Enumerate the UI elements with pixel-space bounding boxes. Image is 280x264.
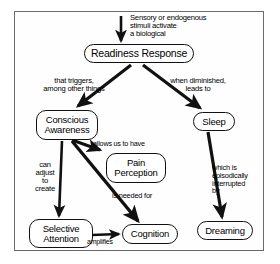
edge-label-when-diminished: when diminished, leads to	[160, 77, 236, 93]
node-selective-attention[interactable]: Selective Attention	[29, 219, 93, 248]
edge-label-is-needed-for: is needed for	[112, 192, 152, 200]
node-sleep-line-1: Sleep	[202, 117, 225, 127]
edge-label-sensory-stimuli-line-3: a biological	[130, 30, 206, 38]
node-readiness-response-line-1: Readiness Response	[91, 48, 187, 59]
edge-label-which-is-episodically-interrupted-by: which is episodically interrupted by	[212, 164, 266, 195]
edge-label-allows-us-to-have: allows us to have	[93, 140, 145, 148]
edge-label-can-adjust-to-create: can adjust to create	[30, 161, 60, 193]
edge-label-amplifies-line-1: amplifies	[87, 238, 113, 245]
node-conscious-awareness[interactable]: Conscious Awareness	[36, 110, 98, 140]
edge-label-which-is-line-3: interrupted	[212, 180, 266, 188]
edge-label-which-is-line-4: by	[212, 187, 266, 195]
node-sleep[interactable]: Sleep	[193, 112, 235, 131]
node-cognition[interactable]: Cognition	[122, 224, 178, 244]
arrow-selective-to-cognition	[92, 234, 119, 235]
edge-label-that-triggers: that triggers, among other things	[28, 77, 120, 93]
edge-label-sensory-stimuli: Sensory or endogenous stimuli activate a…	[130, 14, 206, 38]
node-readiness-response[interactable]: Readiness Response	[84, 44, 194, 63]
edge-label-amplifies: amplifies	[87, 238, 113, 245]
node-pain-perception-line-2: Perception	[114, 168, 157, 178]
edge-label-allows-us-to-have-line-1: allows us to have	[93, 140, 145, 148]
edge-label-can-adjust-to-create-line-4: create	[30, 185, 60, 193]
diagram-canvas: Readiness Response Conscious Awareness S…	[0, 0, 280, 264]
node-selective-attention-line-2: Attention	[43, 234, 79, 244]
edge-label-when-diminished-line-2: leads to	[160, 85, 236, 93]
node-dreaming-line-1: Dreaming	[205, 226, 245, 236]
node-cognition-line-1: Cognition	[131, 229, 169, 239]
node-pain-perception[interactable]: Pain Perception	[106, 153, 166, 183]
edge-label-that-triggers-line-2: among other things	[28, 85, 120, 93]
node-conscious-awareness-line-2: Awareness	[44, 125, 89, 135]
edge-label-is-needed-for-line-1: is needed for	[112, 192, 152, 200]
node-dreaming[interactable]: Dreaming	[197, 221, 253, 240]
